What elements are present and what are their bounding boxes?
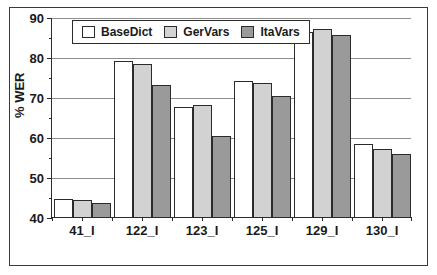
- x-tick-label-122_I: 122_I: [126, 224, 159, 237]
- bar-group-125_I: [234, 18, 291, 217]
- bars-layer: [52, 18, 411, 217]
- bar-130_I-ItaVars: [392, 154, 411, 217]
- x-tick-label-123_I: 123_I: [186, 224, 219, 237]
- bar-130_I-BaseDict: [354, 144, 373, 217]
- bar-129_I-BaseDict: [294, 32, 313, 217]
- x-boundary-tick-0: [52, 217, 53, 221]
- legend-label-ItaVars: ItaVars: [260, 26, 299, 38]
- x-tick-125_I: [262, 217, 263, 221]
- bar-group-41_I: [54, 18, 111, 217]
- bar-130_I-GerVars: [373, 149, 392, 217]
- x-tick-123_I: [202, 217, 203, 221]
- x-boundary-tick-4: [292, 217, 293, 221]
- x-boundary-tick-1: [112, 217, 113, 221]
- bar-122_I-ItaVars: [152, 85, 171, 217]
- bar-group-129_I: [294, 18, 351, 217]
- plot-area: 405060708090 41_I122_I123_I125_I129_I130…: [51, 18, 411, 218]
- bar-41_I-ItaVars: [92, 203, 111, 217]
- y-tick-label-50: 50: [30, 172, 44, 185]
- x-boundary-tick-5: [352, 217, 353, 221]
- y-tick-label-60: 60: [30, 132, 44, 145]
- y-axis-title: % WER: [13, 73, 26, 119]
- bar-125_I-GerVars: [253, 83, 272, 217]
- x-tick-122_I: [142, 217, 143, 221]
- x-boundary-tick-6: [411, 217, 412, 221]
- x-boundary-tick-2: [172, 217, 173, 221]
- legend-label-BaseDict: BaseDict: [101, 26, 152, 38]
- bar-125_I-BaseDict: [234, 81, 253, 217]
- legend-entry-ItaVars: ItaVars: [241, 26, 299, 38]
- legend-label-GerVars: GerVars: [183, 26, 229, 38]
- x-tick-129_I: [322, 217, 323, 221]
- legend-entry-BaseDict: BaseDict: [82, 26, 152, 38]
- bar-123_I-ItaVars: [212, 136, 231, 217]
- x-boundary-tick-3: [232, 217, 233, 221]
- x-tick-130_I: [382, 217, 383, 221]
- bar-123_I-BaseDict: [174, 107, 193, 217]
- bar-group-130_I: [354, 18, 411, 217]
- legend-swatch-BaseDict: [82, 26, 95, 38]
- x-tick-label-41_I: 41_I: [69, 224, 94, 237]
- bar-122_I-GerVars: [133, 64, 152, 217]
- x-tick-label-125_I: 125_I: [246, 224, 279, 237]
- x-tick-label-130_I: 130_I: [366, 224, 399, 237]
- y-tick-label-70: 70: [30, 92, 44, 105]
- y-tick-label-90: 90: [30, 12, 44, 25]
- chart-legend: BaseDictGerVarsItaVars: [72, 20, 310, 44]
- bar-129_I-ItaVars: [332, 35, 351, 217]
- bar-129_I-GerVars: [313, 29, 332, 217]
- bar-chart-figure: % WER 405060708090 41_I122_I123_I125_I12…: [0, 0, 437, 275]
- bar-125_I-ItaVars: [272, 96, 291, 217]
- bar-41_I-GerVars: [73, 200, 92, 217]
- y-tick-label-80: 80: [30, 52, 44, 65]
- legend-swatch-GerVars: [164, 26, 177, 38]
- x-tick-41_I: [82, 217, 83, 221]
- bar-group-122_I: [114, 18, 171, 217]
- x-tick-label-129_I: 129_I: [306, 224, 339, 237]
- bar-group-123_I: [174, 18, 231, 217]
- legend-entry-GerVars: GerVars: [164, 26, 229, 38]
- bar-41_I-BaseDict: [54, 199, 73, 217]
- bar-122_I-BaseDict: [114, 61, 133, 217]
- bar-123_I-GerVars: [193, 105, 212, 217]
- legend-swatch-ItaVars: [241, 26, 254, 38]
- y-tick-label-40: 40: [30, 212, 44, 225]
